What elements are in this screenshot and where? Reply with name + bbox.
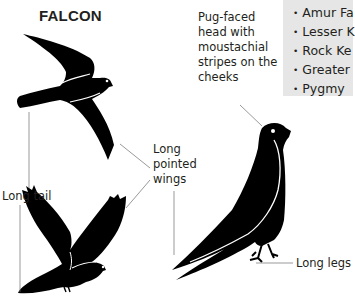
head-leader xyxy=(240,105,262,126)
wings-annotation: Long pointed wings xyxy=(153,142,203,187)
wings-leader-top xyxy=(120,144,150,168)
legs-annotation: Long legs xyxy=(296,256,351,271)
wings-leader-bottom xyxy=(126,180,150,208)
flying-falcon-silhouette xyxy=(17,34,114,160)
tail-annotation: Long tail xyxy=(2,189,51,204)
head-annotation: Pug-faced head with moustachial stripes … xyxy=(198,10,278,85)
